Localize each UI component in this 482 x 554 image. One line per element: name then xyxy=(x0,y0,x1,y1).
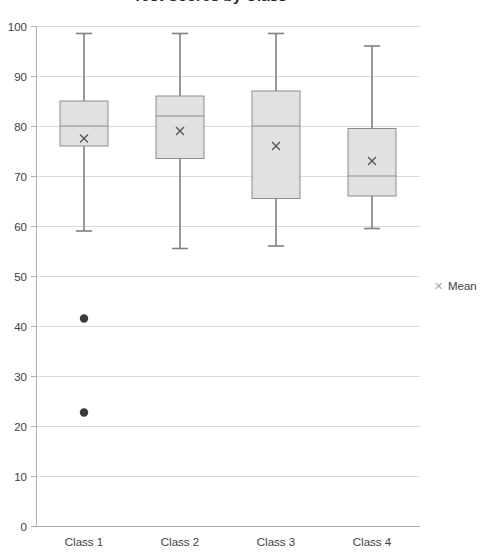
ytick-label-80: 80 xyxy=(14,121,27,133)
ytick-label-30: 30 xyxy=(14,371,27,383)
ytick-label-20: 20 xyxy=(14,421,27,433)
ytick-label-70: 70 xyxy=(14,171,27,183)
box-plot-chart: Test Scores by Class 0102030405060708090… xyxy=(0,0,482,554)
box-2 xyxy=(156,96,204,159)
xtick-label-1: Class 1 xyxy=(65,536,103,548)
boxplot-group-3 xyxy=(252,34,300,247)
xtick-label-2: Class 2 xyxy=(161,536,199,548)
mean-marker-icon: ✕ xyxy=(434,282,443,291)
boxplot-group-1 xyxy=(60,34,108,417)
xtick-label-4: Class 4 xyxy=(353,536,392,548)
outlier-1-1 xyxy=(80,314,88,322)
box-3 xyxy=(252,91,300,199)
ytick-label-100: 100 xyxy=(8,21,27,33)
boxplot-group-2 xyxy=(156,34,204,249)
outlier-1-2 xyxy=(80,408,88,416)
boxplot-group-4 xyxy=(348,46,396,229)
legend: ✕ Mean xyxy=(434,280,477,292)
plot-area: 0102030405060708090100Class 1Class 2Clas… xyxy=(0,0,482,554)
ytick-label-60: 60 xyxy=(14,221,27,233)
ytick-label-0: 0 xyxy=(21,521,27,533)
ytick-label-10: 10 xyxy=(14,471,27,483)
ytick-label-90: 90 xyxy=(14,71,27,83)
legend-label-mean: Mean xyxy=(448,280,477,292)
xtick-label-3: Class 3 xyxy=(257,536,295,548)
ytick-label-40: 40 xyxy=(14,321,27,333)
ytick-label-50: 50 xyxy=(14,271,27,283)
box-4 xyxy=(348,129,396,197)
